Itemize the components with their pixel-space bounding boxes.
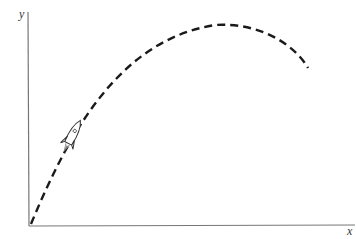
trajectory-plot — [0, 0, 356, 239]
trajectory-path — [31, 25, 308, 224]
x-axis-label: x — [347, 224, 352, 239]
y-axis-label: y — [19, 7, 24, 22]
y-axis — [28, 12, 29, 226]
rocket-icon — [58, 117, 86, 154]
x-axis — [29, 225, 355, 226]
